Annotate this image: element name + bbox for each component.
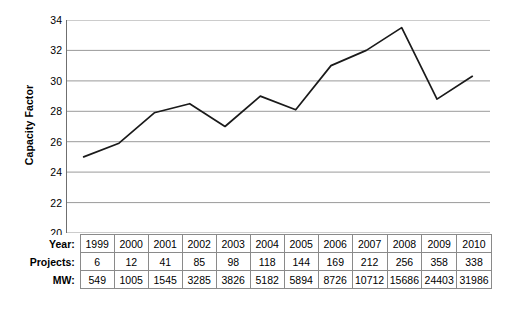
y-tick-label-26: 26 [40,137,62,147]
cell-projects-2000: 12 [114,253,148,271]
cell-year-2003: 2003 [216,235,250,253]
row-label-projects: Projects: [15,253,80,271]
cell-year-2006: 2006 [318,235,352,253]
cell-year-2009: 2009 [422,235,457,253]
chart-figure: Capacity Factor 3432302826242220 Year:19… [0,0,514,311]
y-tick-label-28: 28 [40,106,62,116]
cell-projects-1999: 6 [80,253,114,271]
cell-projects-2002: 85 [182,253,216,271]
cell-year-1999: 1999 [80,235,114,253]
row-label-mw: MW: [15,271,80,289]
cell-projects-2008: 256 [387,253,422,271]
cell-mw-2005: 5894 [284,271,318,289]
row-label-year: Year: [15,235,80,253]
cell-mw-2000: 1005 [114,271,148,289]
y-axis-tick-labels: 3432302826242220 [36,20,62,233]
cell-projects-2006: 169 [318,253,352,271]
plot-area [66,20,490,233]
cell-mw-2004: 5182 [250,271,284,289]
cell-mw-2001: 1545 [148,271,182,289]
y-tick-label-32: 32 [40,45,62,55]
cell-projects-2009: 358 [422,253,457,271]
y-tick-label-24: 24 [40,167,62,177]
cell-year-2000: 2000 [114,235,148,253]
y-tick-label-22: 22 [40,198,62,208]
y-axis-title: Capacity Factor [22,60,36,190]
cell-year-2005: 2005 [284,235,318,253]
line-chart-svg [66,20,490,233]
cell-mw-2007: 10712 [352,271,387,289]
data-series-line [84,28,473,157]
cell-projects-2003: 98 [216,253,250,271]
cell-year-2010: 2010 [457,235,492,253]
cell-year-2004: 2004 [250,235,284,253]
cell-mw-2009: 24403 [422,271,457,289]
cell-mw-2010: 31986 [457,271,492,289]
cell-mw-2006: 8726 [318,271,352,289]
cell-projects-2004: 118 [250,253,284,271]
cell-mw-2008: 15686 [387,271,422,289]
table-row-year: Year:19992000200120022003200420052006200… [15,235,492,253]
cell-year-2008: 2008 [387,235,422,253]
table-row-projects: Projects:612418598118144169212256358338 [15,253,492,271]
cell-mw-2003: 3826 [216,271,250,289]
y-tick-label-34: 34 [40,15,62,25]
cell-year-2002: 2002 [182,235,216,253]
cell-year-2007: 2007 [352,235,387,253]
data-table: Year:19992000200120022003200420052006200… [15,234,492,289]
cell-year-2001: 2001 [148,235,182,253]
cell-projects-2005: 144 [284,253,318,271]
cell-projects-2001: 41 [148,253,182,271]
cell-projects-2010: 338 [457,253,492,271]
cell-mw-1999: 549 [80,271,114,289]
table-row-mw: MW:5491005154532853826518258948726107121… [15,271,492,289]
y-tick-label-30: 30 [40,76,62,86]
cell-projects-2007: 212 [352,253,387,271]
cell-mw-2002: 3285 [182,271,216,289]
